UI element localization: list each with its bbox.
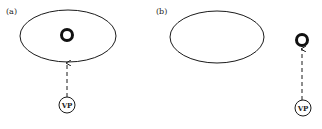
panel-a-ring-object <box>62 30 73 41</box>
diagram-canvas: (a) VP (b) VP <box>0 0 322 129</box>
panel-b: (b) VP <box>156 7 311 116</box>
panel-a-ellipse <box>20 10 116 62</box>
panel-a-label: (a) <box>6 7 17 16</box>
panel-a: (a) VP <box>6 7 116 113</box>
panel-a-viewpoint: VP <box>59 97 75 113</box>
panel-b-ring-object <box>297 35 308 46</box>
panel-a-viewpoint-label: VP <box>61 101 73 110</box>
panel-b-label: (b) <box>156 7 167 16</box>
panel-b-viewpoint: VP <box>295 100 311 116</box>
panel-b-viewpoint-label: VP <box>297 104 309 113</box>
panel-b-ellipse <box>170 11 264 63</box>
